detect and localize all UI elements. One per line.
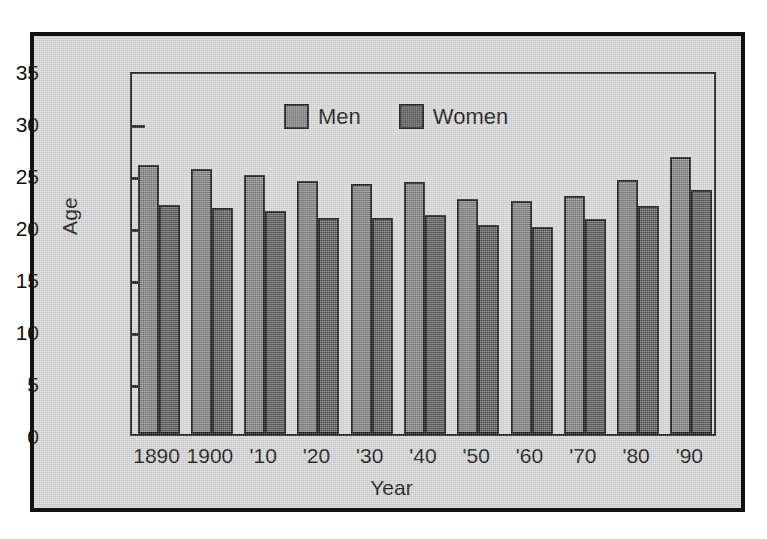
bar-women-1900: [212, 208, 233, 434]
x-axis-title: Year: [34, 476, 749, 500]
bar-men-10: [244, 175, 265, 434]
legend-swatch-women-icon: [399, 104, 424, 129]
x-axis-tick-label: '20: [303, 444, 330, 468]
bar-group: [511, 74, 553, 434]
y-axis-tick-label: 0: [0, 426, 39, 447]
bar-men-20: [297, 181, 318, 434]
bar-women-90: [691, 190, 712, 434]
x-axis-tick-label: '70: [569, 444, 596, 468]
x-axis-tick-label: '80: [622, 444, 649, 468]
bar-group: [670, 74, 712, 434]
x-axis-tick-label: 1890: [133, 444, 180, 468]
bar-men-40: [404, 182, 425, 434]
x-axis-tick-label: '30: [356, 444, 383, 468]
bar-group: [617, 74, 659, 434]
x-axis-tick-label: '40: [409, 444, 436, 468]
x-axis-tick-label: 1900: [187, 444, 234, 468]
legend-label-men: Men: [318, 106, 361, 128]
bar-women-20: [318, 218, 339, 434]
chart-legend: Men Women: [284, 104, 508, 129]
bar-men-30: [351, 184, 372, 434]
x-axis-tick-label: '10: [249, 444, 276, 468]
bar-group: [244, 74, 286, 434]
bar-group: [191, 74, 233, 434]
bar-men-80: [617, 180, 638, 434]
y-axis-tick-label: 10: [0, 322, 39, 343]
y-axis-tick-label: 25: [0, 166, 39, 187]
legend-entry-men: Men: [284, 104, 361, 129]
bar-group: [564, 74, 606, 434]
legend-label-women: Women: [433, 106, 508, 128]
bar-women-1890: [159, 205, 180, 434]
bar-women-80: [638, 206, 659, 434]
bar-men-70: [564, 196, 585, 434]
chart-figure: Men Women Age 05101520253035 18901900'10…: [30, 32, 745, 512]
bar-men-50: [457, 199, 478, 434]
x-axis-tick-label: '90: [676, 444, 703, 468]
y-axis-tick-label: 35: [0, 62, 39, 83]
bar-women-30: [372, 218, 393, 434]
bar-group: [138, 74, 180, 434]
bar-women-40: [425, 215, 446, 434]
bar-women-50: [478, 225, 499, 434]
x-axis-tick-label: '50: [463, 444, 490, 468]
y-axis-tick-label: 5: [0, 374, 39, 395]
bar-women-70: [585, 219, 606, 434]
bar-men-1890: [138, 165, 159, 434]
y-axis-tick-label: 30: [0, 114, 39, 135]
legend-entry-women: Women: [399, 104, 508, 129]
y-axis-title: Age: [58, 156, 82, 276]
legend-swatch-men-icon: [284, 104, 309, 129]
bar-men-60: [511, 201, 532, 434]
bar-women-10: [265, 211, 286, 434]
bar-men-90: [670, 157, 691, 434]
x-axis-tick-label: '60: [516, 444, 543, 468]
bar-women-60: [532, 227, 553, 434]
bar-men-1900: [191, 169, 212, 434]
y-axis-tick-label: 20: [0, 218, 39, 239]
y-axis-tick-label: 15: [0, 270, 39, 291]
